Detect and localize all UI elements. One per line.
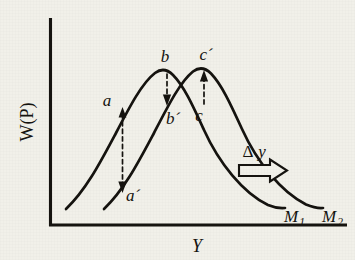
label-point-b-prime: b´ — [166, 109, 181, 128]
arrow-head-up-a — [119, 107, 127, 118]
transition-c-to-c-prime — [200, 70, 208, 104]
label-shift-variable: y — [256, 142, 266, 161]
shift-block-arrow — [239, 160, 287, 182]
label-delta-symbol: Δ — [243, 142, 254, 161]
figure-container: W(P) Y a a´ b b´ c c´ Δ y M 1 M 2 — [0, 0, 355, 260]
label-point-b: b — [161, 47, 170, 66]
label-curve-m2: M — [321, 207, 337, 226]
y-axis-label: W(P) — [17, 103, 38, 142]
label-point-c-prime: c´ — [199, 45, 213, 64]
diagram-canvas: W(P) Y a a´ b b´ c c´ Δ y M 1 M 2 — [0, 0, 355, 260]
label-curve-m1-subscript: 1 — [299, 216, 305, 228]
x-axis-label: Y — [192, 236, 204, 256]
label-point-c: c — [195, 106, 203, 125]
label-curve-m1: M — [283, 207, 299, 226]
label-point-a: a — [103, 91, 112, 110]
label-curve-m2-subscript: 2 — [337, 216, 343, 228]
label-point-a-prime: a´ — [126, 186, 141, 205]
